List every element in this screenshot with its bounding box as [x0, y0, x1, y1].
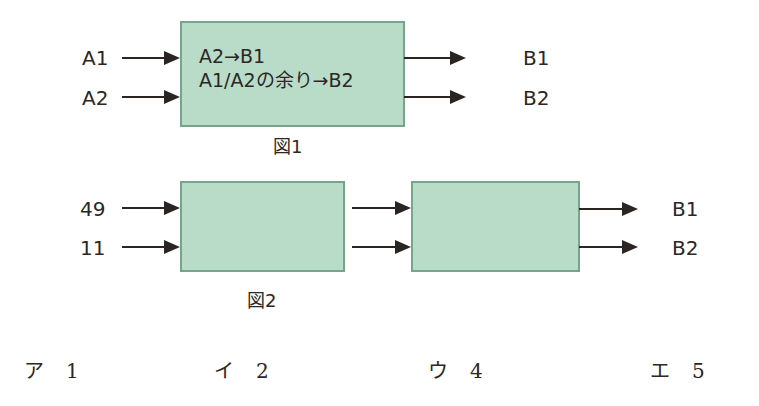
choice-mark: ア	[24, 359, 44, 383]
input-label-a2: A2	[82, 88, 108, 108]
input-label-11: 11	[80, 238, 105, 258]
arrow-right-icon	[122, 48, 180, 68]
choice-e[interactable]: エ5	[650, 360, 705, 382]
choice-i[interactable]: イ2	[214, 360, 269, 382]
process-box-1: A2→B1 A1/A2の余り→B2	[180, 21, 405, 127]
choice-a[interactable]: ア1	[24, 360, 79, 382]
arrow-right-icon	[579, 237, 638, 257]
figure-caption-1: 図1	[273, 137, 302, 157]
choice-mark: ウ	[428, 359, 448, 383]
output-label-b1: B1	[523, 48, 549, 68]
output-label-b1: B1	[672, 199, 698, 219]
arrow-right-icon	[122, 87, 180, 107]
choice-u[interactable]: ウ4	[428, 360, 483, 382]
input-label-a1: A1	[82, 48, 108, 68]
process-box-2b	[411, 181, 580, 272]
box-rule-line-2: A1/A2の余り→B2	[199, 68, 354, 93]
figure-caption-2: 図2	[247, 291, 276, 311]
process-box-2a	[180, 181, 345, 272]
arrow-right-icon	[352, 237, 411, 257]
arrow-right-icon	[404, 48, 466, 68]
arrow-right-icon	[579, 199, 638, 219]
choice-value: 2	[256, 359, 269, 383]
choice-value: 5	[692, 359, 705, 383]
arrow-right-icon	[352, 198, 411, 218]
arrow-right-icon	[404, 87, 466, 107]
choice-value: 4	[470, 359, 483, 383]
choice-value: 1	[66, 359, 79, 383]
output-label-b2: B2	[672, 238, 698, 258]
arrow-right-icon	[122, 198, 180, 218]
choice-mark: エ	[650, 359, 670, 383]
choice-mark: イ	[214, 359, 234, 383]
arrow-right-icon	[122, 237, 180, 257]
input-label-49: 49	[80, 199, 105, 219]
box-rule-line-1: A2→B1	[199, 44, 265, 69]
output-label-b2: B2	[523, 88, 549, 108]
